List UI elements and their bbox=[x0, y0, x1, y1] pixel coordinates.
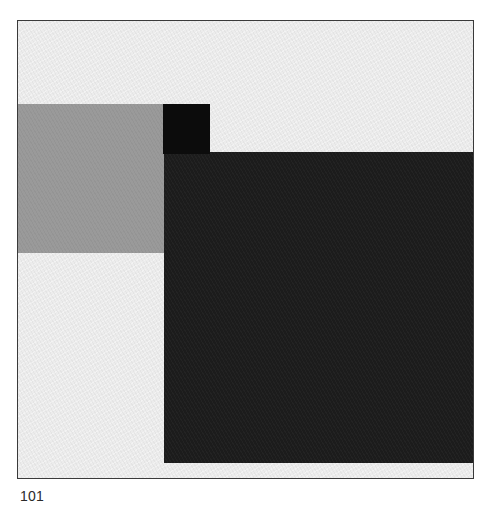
black-small-square bbox=[163, 104, 210, 154]
page-number: 101 bbox=[20, 488, 44, 504]
artwork-frame bbox=[17, 20, 474, 479]
page: 101 bbox=[0, 0, 483, 510]
dark-large-rectangle bbox=[164, 152, 473, 463]
gray-rectangle bbox=[18, 104, 164, 253]
